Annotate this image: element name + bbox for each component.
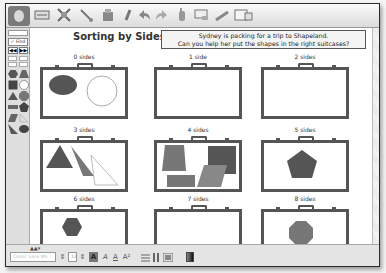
color-swatch[interactable] [186, 252, 194, 262]
superscript-button[interactable]: A² [122, 252, 131, 262]
columns-icon[interactable] [152, 253, 161, 262]
palette-trapezoid-icon[interactable] [18, 68, 29, 79]
panel-field[interactable] [8, 56, 17, 61]
palette-right-triangle-icon[interactable] [18, 112, 29, 123]
format-bar: ▲▲▾ Comic Sans MS ⇕ 12 ⇕ A A A A² [6, 244, 379, 266]
italic-button[interactable]: A [101, 252, 110, 262]
prev-button[interactable]: ◀◀ [8, 47, 18, 54]
suitcase-4-contents [157, 143, 239, 189]
palette-octagon-icon[interactable] [18, 90, 29, 101]
stud [55, 65, 59, 67]
stud [332, 65, 336, 67]
suitcase-label: 7 sides [148, 195, 248, 202]
suitcase-2-sides[interactable] [261, 67, 349, 119]
suitcase-handle [77, 205, 93, 211]
suitcase-0-contents [43, 70, 125, 116]
palette-pentagon-icon[interactable] [18, 101, 29, 112]
undo-icon[interactable] [136, 7, 152, 23]
suitcase-5-sides[interactable] [261, 140, 349, 192]
screen-icon[interactable] [194, 7, 210, 23]
stud [276, 65, 280, 67]
rectangle-shape[interactable] [167, 175, 195, 187]
suitcase-label: 5 sides [255, 126, 355, 133]
page-canvas[interactable]: Sorting by Sides Sydney is packing for a… [30, 28, 373, 244]
right-triangle-shape[interactable] [71, 146, 94, 176]
palette-rectangle-icon[interactable] [7, 101, 18, 112]
vertical-scrollbar[interactable] [372, 28, 379, 244]
instructions-line-1: Sydney is packing for a trip to Shapelan… [162, 32, 365, 40]
palette-ellipse-icon[interactable] [18, 123, 29, 134]
triangle-shape[interactable] [46, 145, 73, 168]
suitcase-5-contents [264, 143, 346, 189]
hexagon-shape[interactable] [62, 218, 82, 236]
panel-field[interactable] [8, 62, 17, 67]
toolbar [6, 4, 379, 28]
pencil-icon[interactable] [214, 7, 230, 23]
stud [111, 65, 115, 67]
instructions-box: Sydney is packing for a trip to Shapelan… [161, 30, 366, 49]
circle-shape[interactable] [87, 76, 117, 106]
app-logo-icon[interactable] [8, 6, 30, 26]
suitcase-handle [77, 136, 93, 142]
stud [332, 207, 336, 209]
page-tool-icon[interactable] [234, 7, 254, 23]
stud [169, 65, 173, 67]
octagon-shape[interactable] [289, 221, 313, 244]
layout-icon[interactable] [163, 253, 173, 262]
redo-icon[interactable] [154, 7, 170, 23]
palette-square-icon[interactable] [7, 79, 18, 90]
stud [225, 138, 229, 140]
suitcase-handle [298, 63, 314, 69]
suitcase-handle [191, 63, 207, 69]
stud [55, 138, 59, 140]
corner-controls[interactable]: ▲▲▾ [30, 245, 40, 251]
palette-parallelogram-icon[interactable] [7, 112, 18, 123]
panel-field[interactable] [19, 56, 28, 61]
suitcase-8-sides[interactable] [261, 209, 349, 244]
suitcase-7-sides[interactable] [154, 209, 242, 244]
font-field[interactable]: Comic Sans MS [10, 252, 56, 262]
size-field[interactable]: 12 [68, 252, 77, 262]
pentagon-shape[interactable] [287, 150, 317, 178]
suitcase-handle [191, 136, 207, 142]
stud [276, 138, 280, 140]
suitcase-4-sides[interactable] [154, 140, 242, 192]
size-stepper[interactable]: ⇕ [78, 252, 87, 262]
align-icon[interactable] [141, 253, 150, 262]
suitcase-label: 8 sides [255, 195, 355, 202]
hand-tool-icon[interactable] [174, 7, 190, 23]
suitcase-1-side[interactable] [154, 67, 242, 119]
parallelogram-shape[interactable] [197, 165, 227, 187]
suitcase-handle [191, 205, 207, 211]
pen-tool-icon[interactable] [120, 7, 136, 23]
palette-circle-icon[interactable] [18, 79, 29, 90]
palette-triangle-2-icon[interactable] [7, 123, 18, 134]
next-button[interactable]: ▶▶ [19, 47, 29, 54]
font-stepper[interactable]: ⇕ [58, 252, 67, 262]
suitcase-0-sides[interactable] [40, 67, 128, 119]
underline-button[interactable]: A [111, 252, 120, 262]
panel-field[interactable] [19, 62, 28, 67]
trapezoid-shape[interactable] [162, 145, 186, 171]
suitcase-3-sides[interactable] [40, 140, 128, 192]
suitcase-6-sides[interactable] [40, 209, 128, 244]
select-tool-icon[interactable] [34, 7, 50, 23]
bold-button[interactable]: A [89, 252, 98, 262]
ellipse-shape[interactable] [49, 75, 77, 95]
palette-hexagon-icon[interactable] [7, 68, 18, 79]
line-tool-icon[interactable] [78, 7, 94, 23]
suitcase-handle [298, 205, 314, 211]
find-label: Find [16, 39, 25, 44]
find-button[interactable]: ✓ Find [8, 38, 28, 46]
shapes-tool-icon[interactable] [56, 7, 72, 23]
suitcase-label: 4 sides [148, 126, 248, 133]
panel-row [8, 62, 28, 67]
page-title: Sorting by Sides [73, 31, 166, 42]
find-input[interactable] [8, 30, 28, 36]
paint-tool-icon[interactable] [100, 7, 116, 23]
suitcase-label: 1 side [148, 53, 248, 60]
shape-palette [7, 68, 29, 134]
stud [55, 207, 59, 209]
outline-triangle-shape[interactable] [91, 155, 118, 185]
palette-triangle-icon[interactable] [7, 90, 18, 101]
